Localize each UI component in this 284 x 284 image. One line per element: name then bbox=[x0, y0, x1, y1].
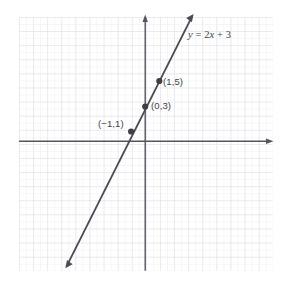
point-0-3 bbox=[142, 103, 148, 109]
point-1-5 bbox=[156, 78, 162, 84]
equation-label-rhs: + 3 bbox=[214, 29, 231, 40]
point-label-neg1-1: (−1,1) bbox=[98, 119, 124, 129]
point-neg1-1 bbox=[128, 128, 134, 134]
equation-label: y = 2x + 3 bbox=[188, 30, 231, 41]
equation-label-eq: = 2 bbox=[193, 29, 210, 40]
point-label-1-5: (1,5) bbox=[163, 77, 183, 87]
graph-figure: y = 2x + 3 (1,5) (0,3) (−1,1) bbox=[0, 0, 284, 284]
point-label-0-3: (0,3) bbox=[151, 101, 171, 111]
coordinate-plane-svg bbox=[0, 0, 284, 284]
